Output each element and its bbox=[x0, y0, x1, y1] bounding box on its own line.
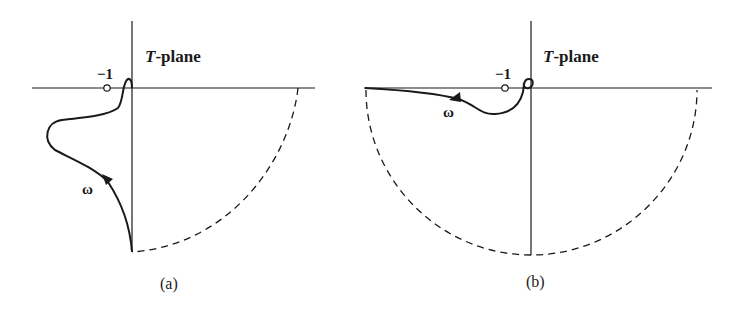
minus-one-label-b: −1 bbox=[495, 66, 511, 82]
minus-one-point-a bbox=[104, 85, 110, 91]
panel-b: −1 T-plane ω (b) bbox=[364, 21, 712, 291]
panel-a: −1 T-plane ω (a) bbox=[32, 21, 315, 293]
omega-label-b: ω bbox=[443, 104, 454, 120]
plane-label-italic-a: T bbox=[145, 47, 156, 66]
plane-label-a: T-plane bbox=[145, 47, 201, 66]
nyquist-curve-a bbox=[47, 79, 132, 252]
minus-one-point-b bbox=[502, 85, 508, 91]
plane-label-rest-a: -plane bbox=[155, 47, 201, 66]
direction-arrow-a bbox=[102, 174, 113, 185]
plane-label-rest-b: -plane bbox=[553, 47, 599, 66]
omega-label-a: ω bbox=[82, 181, 93, 197]
minus-one-label-a: −1 bbox=[97, 66, 113, 82]
nyquist-figure: −1 T-plane ω (a) −1 T-plane ω (b) bbox=[0, 0, 741, 310]
plane-label-b: T-plane bbox=[543, 47, 599, 66]
caption-b: (b) bbox=[526, 273, 545, 291]
plane-label-italic-b: T bbox=[543, 47, 554, 66]
caption-a: (a) bbox=[160, 275, 178, 293]
dashed-arc-a bbox=[132, 88, 298, 252]
